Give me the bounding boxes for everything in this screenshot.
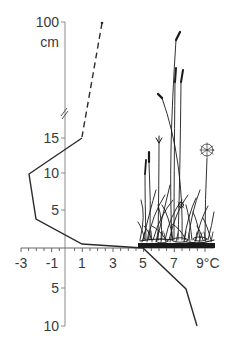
x-tick-label-minus-1: -1: [40, 256, 64, 270]
x-tick-label-minus-3: -3: [9, 256, 33, 270]
x-tick-label-1: 1: [70, 256, 94, 270]
x-axis: [21, 248, 214, 252]
x-tick-label-5: 5: [131, 256, 155, 270]
x-tick-label-9-celsius: 9°C: [196, 256, 220, 270]
y-tick-label-10: 10: [19, 166, 59, 180]
y-tick-label-below-10: 10: [19, 319, 59, 333]
air-temperature-dashed-line: [82, 23, 102, 137]
x-tick-label-7: 7: [162, 256, 186, 270]
dashed-line-endpoint: [101, 22, 104, 25]
temperature-profile-diagram: 100 cm 15 10 5 5 10 -3 -1 1 3 5 7 9°C: [0, 0, 228, 346]
grass-tussock-illustration: [138, 32, 215, 248]
x-tick-label-3: 3: [101, 256, 125, 270]
y-tick-label-15: 15: [19, 131, 59, 145]
y-axis-unit-label: cm: [19, 35, 59, 49]
y-tick-label-100: 100: [19, 15, 59, 29]
y-tick-label-5: 5: [19, 203, 59, 217]
y-tick-label-below-5: 5: [19, 281, 59, 295]
y-axis: [61, 22, 65, 326]
